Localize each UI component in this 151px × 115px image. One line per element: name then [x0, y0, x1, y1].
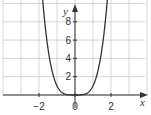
x-tick-label: 0: [72, 101, 78, 112]
y-tick-label: 8: [65, 16, 71, 27]
chart: −2022468 x y: [0, 0, 151, 115]
y-tick-label: 2: [65, 71, 71, 82]
x-tick-label: 2: [108, 101, 114, 112]
y-tick-label: 6: [65, 35, 71, 46]
y-tick-label: 4: [65, 53, 71, 64]
y-axis-arrow-icon: [72, 4, 78, 12]
x-axis-label: x: [139, 96, 145, 108]
y-axis-label: y: [62, 5, 68, 17]
axes: [3, 4, 148, 108]
x-tick-label: −2: [33, 101, 45, 112]
